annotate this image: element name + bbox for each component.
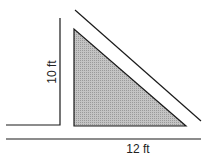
height-label: 10 ft bbox=[45, 60, 59, 84]
shaded-triangle bbox=[74, 29, 186, 126]
base-label: 12 ft bbox=[126, 142, 150, 156]
triangle-diagram: 10 ft 12 ft bbox=[0, 0, 214, 157]
